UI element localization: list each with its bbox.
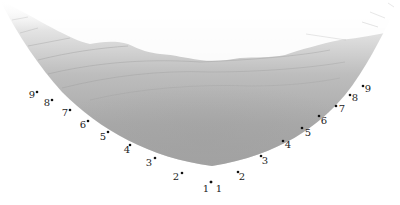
tick-label: 1	[216, 183, 222, 194]
tick-dot	[181, 172, 184, 175]
tick-dot	[335, 105, 338, 108]
right-axis-tick: 8	[349, 92, 358, 103]
left-axis-tick: 3	[146, 157, 156, 168]
left-axis-tick: 2	[173, 171, 183, 182]
right-axis-tick: 4	[282, 139, 291, 150]
tick-label: 1	[203, 183, 209, 194]
tick-dot	[107, 131, 110, 134]
right-axis-tick: 9	[362, 83, 371, 94]
left-axis-tick: 4	[124, 144, 131, 155]
bowl-surface	[0, 0, 400, 166]
tick-label: 3	[262, 155, 268, 166]
tick-dot	[51, 99, 54, 102]
tick-label: 5	[100, 131, 106, 142]
tick-label: 8	[44, 97, 50, 108]
tick-dot	[301, 127, 304, 130]
tick-label: 9	[365, 83, 371, 94]
right-axis-tick: 1	[210, 181, 222, 194]
tick-dot	[69, 109, 72, 112]
tick-label: 8	[352, 92, 358, 103]
tick-label: 4	[124, 144, 130, 155]
left-axis-tick: 9	[29, 89, 38, 100]
bowl-inner-shade	[62, 62, 345, 166]
tick-dot	[154, 157, 157, 160]
left-axis-tick: 5	[100, 131, 109, 142]
tick-dot	[210, 181, 213, 184]
left-axis-tick: 7	[62, 107, 71, 118]
tick-label: 4	[285, 139, 291, 150]
tick-label: 6	[80, 119, 86, 130]
tick-label: 9	[29, 89, 35, 100]
tick-dot	[36, 91, 39, 94]
tick-label: 7	[62, 107, 68, 118]
tick-label: 3	[146, 157, 152, 168]
right-axis-tick: 3	[260, 155, 268, 166]
surface-diagram: 123456789 123456789	[0, 0, 400, 205]
surface-plot-canvas: 123456789 123456789	[0, 0, 400, 205]
tick-label: 6	[321, 115, 327, 126]
tick-label: 7	[339, 103, 345, 114]
left-axis-tick: 6	[80, 119, 89, 130]
tick-label: 2	[173, 171, 179, 182]
tick-dot	[87, 120, 90, 123]
tick-label: 2	[239, 171, 245, 182]
right-axis-tick: 2	[237, 171, 245, 182]
left-axis-tick: 8	[44, 97, 53, 108]
tick-label: 5	[305, 127, 311, 138]
